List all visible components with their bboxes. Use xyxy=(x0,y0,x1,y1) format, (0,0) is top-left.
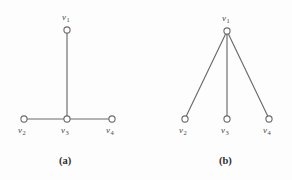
node-v3 xyxy=(64,116,70,122)
vertex-label-v2: v2 xyxy=(179,126,187,135)
vertex-label-v4: v4 xyxy=(263,126,271,135)
vertex-label-v3: v3 xyxy=(221,126,229,135)
panel-a-edges xyxy=(27,33,109,119)
vertex-label-v3: v3 xyxy=(61,126,69,135)
edge-v1-v2 xyxy=(186,34,225,116)
panel-caption-a: (a) xyxy=(59,156,71,167)
vertex-label-v4: v4 xyxy=(106,126,114,135)
edge-v1-v4 xyxy=(228,34,267,116)
node-v2 xyxy=(21,116,27,122)
node-v2 xyxy=(182,116,188,122)
panel-caption-b: (b) xyxy=(219,156,232,167)
vertex-label-v1: v1 xyxy=(62,13,70,22)
panel-b-edges xyxy=(186,34,267,116)
graph-drawing-layer xyxy=(0,0,292,180)
node-v1 xyxy=(224,28,230,34)
node-v3 xyxy=(224,116,230,122)
node-v4 xyxy=(109,116,115,122)
figure-container: v1 v2 v3 v4 v1 v2 v3 v4 (a) (b) xyxy=(0,0,292,180)
node-v1 xyxy=(64,27,70,33)
vertex-label-v1: v1 xyxy=(222,14,230,23)
panel-a-nodes xyxy=(21,27,115,122)
vertex-label-v2: v2 xyxy=(18,126,26,135)
node-v4 xyxy=(266,116,272,122)
